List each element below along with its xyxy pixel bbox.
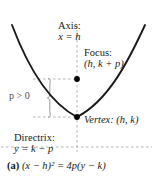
focus-label-coords: (h, k + p) xyxy=(84,59,124,70)
p-condition-label: p > 0 xyxy=(9,91,30,101)
caption-equation: (x − h)² = 4p(y − k) xyxy=(22,160,106,171)
caption-tag: (a) xyxy=(7,160,19,171)
axis-label-equation: x = h xyxy=(58,32,81,43)
vertex-point xyxy=(74,114,80,120)
vertex-label: Vertex: (h, k) xyxy=(84,115,139,126)
focus-label: Focus: (h, k + p) xyxy=(84,48,124,69)
focus-point xyxy=(74,76,80,82)
vertex-label-text: Vertex: (h, k) xyxy=(84,115,139,126)
figure-caption: (a) (x − h)² = 4p(y − k) xyxy=(7,160,106,171)
directrix-label: Directrix: y = k − p xyxy=(14,133,55,154)
parabola-figure: Axis: x = h Focus: (h, k + p) Vertex: (h… xyxy=(0,0,153,179)
p-distance-brace xyxy=(47,79,50,118)
axis-label: Axis: x = h xyxy=(58,21,81,42)
directrix-label-equation: y = k − p xyxy=(14,144,55,155)
